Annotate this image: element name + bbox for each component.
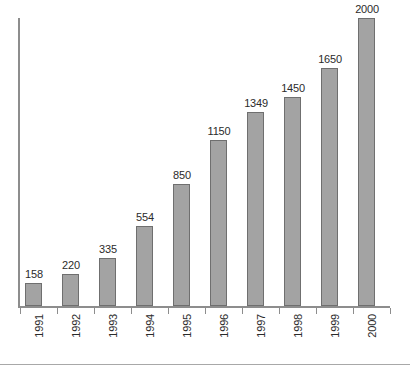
x-axis-tick-label: 2000	[353, 314, 390, 358]
bar	[321, 68, 338, 306]
x-axis-tick-mark	[390, 308, 391, 314]
x-axis-tick-label-text: 1999	[329, 314, 341, 338]
bar	[99, 258, 116, 306]
x-axis-tick-label: 1994	[131, 314, 168, 358]
x-axis-tick-label-text: 1998	[292, 314, 304, 338]
x-axis-tick-label-text: 1993	[107, 314, 119, 338]
x-axis-tick-label: 1993	[94, 314, 131, 358]
x-axis-tick-label-text: 2000	[366, 314, 378, 338]
bar	[136, 226, 153, 306]
bar-value-label: 1450	[272, 82, 314, 94]
bar-group: 1650	[316, 18, 353, 306]
bar	[25, 283, 42, 306]
bar-group: 2000	[353, 18, 390, 306]
bar	[247, 112, 264, 306]
bar	[358, 18, 375, 306]
bar-group: 335	[94, 18, 131, 306]
bar-value-label: 1349	[235, 97, 277, 109]
bar-value-label: 2000	[346, 3, 388, 15]
bar-group: 554	[131, 18, 168, 306]
bar-group: 1150	[205, 18, 242, 306]
bar-group: 220	[57, 18, 94, 306]
bars-container: 15822033555485011501349145016502000	[20, 18, 390, 306]
x-axis-tick-label-text: 1995	[181, 314, 193, 338]
bar-value-label: 335	[87, 243, 129, 255]
bar-value-label: 850	[161, 169, 203, 181]
x-axis-tick-label-text: 1991	[33, 314, 45, 338]
footer-divider-rule	[0, 364, 410, 365]
x-axis-tick-label: 1991	[20, 314, 57, 358]
x-axis-tick-label: 1999	[316, 314, 353, 358]
bar	[284, 97, 301, 306]
x-axis-tick-label-text: 1997	[255, 314, 267, 338]
bar	[173, 184, 190, 306]
x-axis-tick-label: 1992	[57, 314, 94, 358]
bar-chart: 15822033555485011501349145016502000 1991…	[0, 0, 410, 375]
bar-group: 850	[168, 18, 205, 306]
bar-value-label: 554	[124, 211, 166, 223]
x-axis-category-labels: 1991199219931994199519961997199819992000	[20, 314, 390, 360]
x-axis-tick-label: 1998	[279, 314, 316, 358]
bar-value-label: 1150	[198, 125, 240, 137]
bar-value-label: 158	[13, 268, 55, 280]
x-axis-tick-label: 1997	[242, 314, 279, 358]
bar	[210, 140, 227, 306]
bar-group: 1349	[242, 18, 279, 306]
bar	[62, 274, 79, 306]
bar-value-label: 1650	[309, 53, 351, 65]
x-axis-tick-label-text: 1992	[70, 314, 82, 338]
x-axis-tick-label: 1995	[168, 314, 205, 358]
x-axis-tick-label: 1996	[205, 314, 242, 358]
bar-value-label: 220	[50, 259, 92, 271]
x-axis-tick-label-text: 1994	[144, 314, 156, 338]
x-axis-tick-label-text: 1996	[218, 314, 230, 338]
